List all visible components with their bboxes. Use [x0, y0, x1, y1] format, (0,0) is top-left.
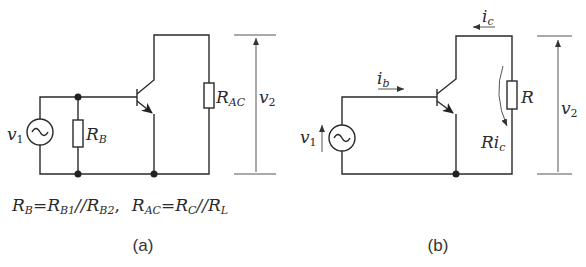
- panel-a-circuit: v1 RB RAC v2 RB=RB1//RB2,RAC=RC//RL (a): [7, 35, 276, 255]
- label-rac: RAC: [215, 87, 246, 109]
- base-wire: [40, 97, 137, 119]
- resistor-rb: [73, 120, 83, 147]
- panel-b-circuit: ib ic R Ric v1 v2 (b): [300, 6, 578, 255]
- caption-b: (b): [428, 236, 449, 255]
- label-ric: Ric: [480, 132, 505, 154]
- sine-wave-icon: [32, 129, 48, 136]
- label-ic: ic: [482, 6, 494, 28]
- junction-dot: [151, 171, 158, 178]
- label-v1: v1: [300, 127, 317, 149]
- caption-a: (a): [133, 236, 154, 255]
- junction-dot: [453, 171, 460, 178]
- collector-wire: [437, 36, 512, 94]
- voltage-drop-arrow-icon: [499, 66, 507, 126]
- resistor-rac: [204, 83, 214, 108]
- junction-dot: [75, 94, 82, 101]
- emitter-arrow-icon: [437, 101, 453, 113]
- collector-wire: [137, 35, 209, 94]
- sine-wave-icon: [334, 135, 350, 142]
- emitter-arrow-icon: [137, 101, 152, 113]
- circuit-diagram: v1 RB RAC v2 RB=RB1//RB2,RAC=RC//RL (a) …: [0, 0, 586, 267]
- label-v1: v1: [7, 124, 24, 146]
- label-v2: v2: [259, 87, 276, 109]
- junction-dot: [75, 171, 82, 178]
- label-ib: ib: [377, 68, 389, 90]
- formula-text: RB=RB1//RB2,RAC=RC//RL: [11, 195, 228, 217]
- label-r: R: [520, 87, 534, 107]
- base-wire: [342, 97, 437, 125]
- ground-wire: [40, 108, 209, 174]
- label-rb: RB: [85, 124, 107, 146]
- resistor-r: [507, 81, 517, 109]
- label-v2: v2: [561, 98, 578, 120]
